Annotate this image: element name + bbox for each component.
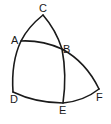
point-label-e: E xyxy=(59,104,66,116)
arc-cbe xyxy=(43,15,65,103)
arc-abf xyxy=(21,41,99,89)
point-label-d: D xyxy=(10,93,18,105)
point-label-c: C xyxy=(39,2,47,14)
geometry-diagram: C A B D E F xyxy=(0,0,111,124)
point-label-f: F xyxy=(96,91,103,103)
arc-cad xyxy=(13,15,43,92)
point-label-a: A xyxy=(11,34,19,46)
arc-def xyxy=(13,89,99,103)
point-label-b: B xyxy=(63,43,70,55)
